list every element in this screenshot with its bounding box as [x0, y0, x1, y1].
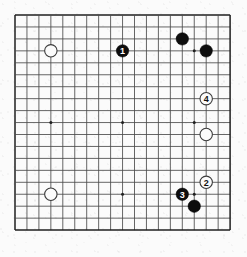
move-number-label-4: 4 [204, 94, 209, 104]
star-point-3 [193, 49, 196, 52]
go-board[interactable]: 1423 [0, 0, 247, 257]
black-stone-disc [200, 45, 212, 57]
move-number-label-3: 3 [180, 190, 185, 200]
star-point-5 [121, 121, 124, 124]
stone-black-move-1[interactable]: 1 [116, 45, 128, 57]
star-point-6 [193, 121, 196, 124]
stone-black-move-3[interactable]: 3 [176, 188, 188, 200]
white-stone-disc [45, 188, 57, 200]
white-stone-disc [45, 45, 57, 57]
go-board-figure: 1423 [0, 0, 247, 257]
black-stone-disc [188, 200, 200, 212]
stone-white-right-side[interactable] [200, 128, 212, 140]
stone-black-upper-right-high[interactable] [176, 33, 188, 45]
stone-white-move-2[interactable]: 2 [200, 176, 212, 188]
move-number-label-2: 2 [204, 178, 209, 188]
star-point-9 [193, 193, 196, 196]
white-stone-disc [200, 128, 212, 140]
star-point-8 [121, 193, 124, 196]
star-point-4 [49, 121, 52, 124]
stone-black-lower-right[interactable] [188, 200, 200, 212]
stone-black-upper-right-star[interactable] [200, 45, 212, 57]
stone-white-upper-left[interactable] [45, 45, 57, 57]
black-stone-disc [176, 33, 188, 45]
move-number-label-1: 1 [120, 46, 125, 56]
stone-white-move-4[interactable]: 4 [200, 92, 212, 104]
stone-white-lower-left[interactable] [45, 188, 57, 200]
